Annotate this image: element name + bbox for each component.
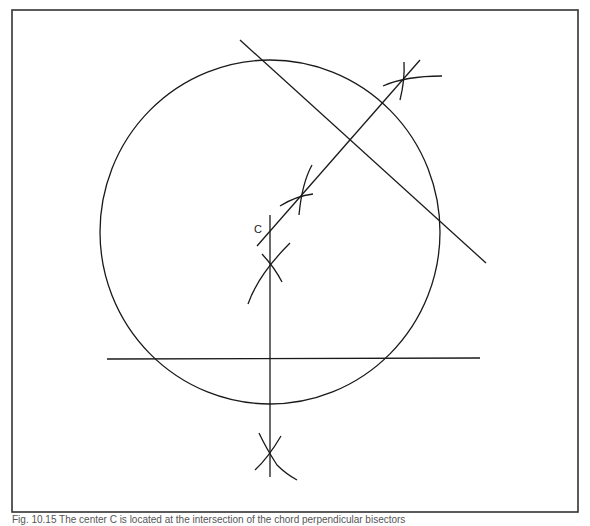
- perpendicular-bisector-diagonal: [257, 60, 420, 246]
- figure-caption: Fig. 10.15 The center C is located at th…: [12, 514, 582, 526]
- arc-marks-vertical-upper: [248, 243, 290, 304]
- chord-horizontal: [107, 358, 480, 359]
- arc-marks-diagonal-lower: [280, 165, 313, 215]
- center-label-c: C: [254, 223, 262, 235]
- chord-diagonal: [240, 40, 486, 263]
- figure-frame: [12, 10, 578, 512]
- arc-marks-vertical-lower: [255, 433, 297, 480]
